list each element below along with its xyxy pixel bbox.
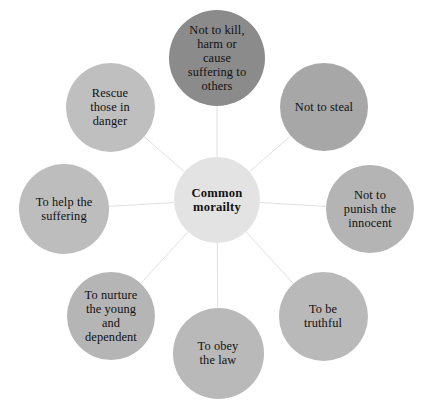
node-rescue-those-in-danger[interactable]: Rescue those in danger xyxy=(66,63,155,152)
node-not-to-kill[interactable]: Not to kill, harm or cause suffering to … xyxy=(169,10,265,106)
spoke-line-to-be-truthful xyxy=(246,232,293,283)
spoke-line-to-help-the-suffering xyxy=(109,203,174,207)
node-label-rescue-those-in-danger: Rescue those in danger xyxy=(86,86,134,128)
spoke-line-not-to-punish-the-innocent xyxy=(260,203,326,207)
node-label-not-to-kill: Not to kill, harm or cause suffering to … xyxy=(184,23,250,93)
node-label-to-nurture-the-young-and-dependent: To nurture the young and dependent xyxy=(81,288,142,344)
spoke-line-not-to-steal xyxy=(249,136,290,172)
node-not-to-steal[interactable]: Not to steal xyxy=(280,63,368,151)
node-to-nurture-the-young-and-dependent[interactable]: To nurture the young and dependent xyxy=(67,272,155,360)
node-label-not-to-steal: Not to steal xyxy=(291,100,357,114)
node-label-to-help-the-suffering: To help the suffering xyxy=(32,195,97,223)
node-label-to-obey-the-law: To obey the law xyxy=(194,339,243,367)
node-label-center: Common morailty xyxy=(188,186,247,214)
node-center[interactable]: Common morailty xyxy=(174,157,260,243)
node-to-be-truthful[interactable]: To be truthful xyxy=(279,272,368,361)
node-to-help-the-suffering[interactable]: To help the suffering xyxy=(19,164,109,254)
node-not-to-punish-the-innocent[interactable]: Not to punish the innocent xyxy=(326,165,414,253)
spoke-line-to-nurture-the-young-and-dependent xyxy=(141,232,188,284)
node-to-obey-the-law[interactable]: To obey the law xyxy=(173,308,264,399)
node-label-not-to-punish-the-innocent: Not to punish the innocent xyxy=(340,188,400,230)
spoke-line-rescue-those-in-danger xyxy=(144,136,185,172)
common-morality-diagram: Not to kill, harm or cause suffering to … xyxy=(0,0,432,420)
node-label-to-be-truthful: To be truthful xyxy=(300,302,346,330)
